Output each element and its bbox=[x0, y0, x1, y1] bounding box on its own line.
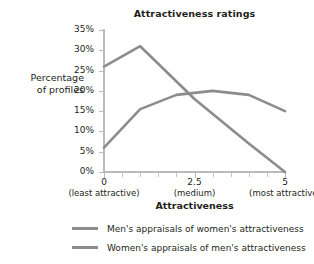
x-tick-label: 5 bbox=[255, 177, 314, 187]
x-tick-sublabel: (least attractive) bbox=[56, 188, 152, 198]
chart-legend: Men's appraisals of women's attractivene… bbox=[0, 219, 314, 257]
chart-figure: Attractiveness ratings Percentage of pro… bbox=[0, 0, 314, 264]
y-tick-mark bbox=[99, 111, 103, 112]
y-tick-label: 5% bbox=[52, 146, 94, 156]
legend-label: Men's appraisals of women's attractivene… bbox=[107, 224, 304, 234]
x-minor-tick-mark bbox=[158, 173, 159, 177]
legend-label: Women's appraisals of men's attractivene… bbox=[107, 243, 306, 253]
y-tick-label: 15% bbox=[52, 105, 94, 115]
legend-swatch-icon bbox=[72, 227, 98, 230]
legend-swatch-icon bbox=[72, 246, 98, 249]
y-tick-mark bbox=[99, 172, 103, 173]
y-tick-label: 10% bbox=[52, 125, 94, 135]
y-tick-label: 25% bbox=[52, 65, 94, 75]
y-tick-label: 0% bbox=[52, 166, 94, 176]
x-minor-tick-mark bbox=[249, 173, 250, 177]
series-line-2 bbox=[104, 91, 285, 148]
y-tick-mark bbox=[99, 91, 103, 92]
legend-item-1[interactable]: Men's appraisals of women's attractivene… bbox=[0, 219, 314, 238]
legend-item-2[interactable]: Women's appraisals of men's attractivene… bbox=[0, 238, 314, 257]
series-line-1 bbox=[104, 46, 285, 172]
x-tick-label: 2.5 bbox=[165, 177, 225, 187]
y-axis-line bbox=[103, 29, 105, 173]
y-tick-label: 30% bbox=[52, 44, 94, 54]
x-tick-label: 0 bbox=[74, 177, 134, 187]
chart-title: Attractiveness ratings bbox=[103, 8, 286, 19]
x-minor-tick-mark bbox=[140, 173, 141, 177]
x-minor-tick-mark bbox=[231, 173, 232, 177]
y-tick-mark bbox=[99, 131, 103, 132]
y-tick-label: 35% bbox=[52, 24, 94, 34]
x-tick-sublabel: (most attractive) bbox=[237, 188, 314, 198]
y-tick-mark bbox=[99, 152, 103, 153]
y-tick-label: 20% bbox=[52, 85, 94, 95]
x-tick-sublabel: (medium) bbox=[147, 188, 243, 198]
y-tick-mark bbox=[99, 71, 103, 72]
y-tick-mark bbox=[99, 30, 103, 31]
x-axis-title: Attractiveness bbox=[103, 200, 286, 211]
y-tick-mark bbox=[99, 50, 103, 51]
